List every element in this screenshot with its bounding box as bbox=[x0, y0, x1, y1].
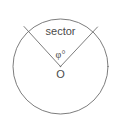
central-angle-label: φ° bbox=[56, 49, 66, 60]
sector-diagram-canvas: sector φ° O bbox=[0, 0, 122, 134]
sector-label: sector bbox=[46, 25, 76, 37]
center-point-label: O bbox=[56, 68, 65, 80]
circle-sector-diagram: sector φ° O bbox=[0, 0, 122, 134]
